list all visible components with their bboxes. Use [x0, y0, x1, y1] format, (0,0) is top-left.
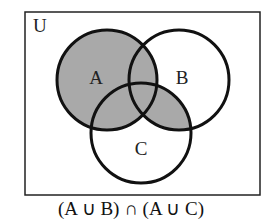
universe-label: U	[33, 15, 47, 36]
set-label-c: C	[135, 138, 148, 159]
set-label-a: A	[89, 67, 103, 88]
venn-diagram: U A B C	[0, 0, 262, 221]
set-expression-caption: (A ∪ B) ∩ (A ∪ C)	[0, 197, 262, 220]
set-label-b: B	[176, 67, 189, 88]
